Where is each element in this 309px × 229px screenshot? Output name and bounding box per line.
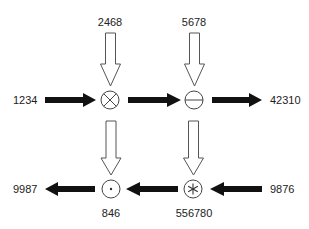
label-top-right: 5678 (182, 16, 206, 28)
solid-arrow-9876-to-star (210, 182, 262, 196)
solid-arrow-1234-to-multiply (45, 93, 96, 107)
multiply-operator-icon (101, 91, 119, 109)
solid-arrow-dot-to-9987 (45, 182, 95, 196)
solid-arrow-minus-to-42310 (212, 93, 262, 107)
label-top-left: 2468 (98, 16, 122, 28)
solid-arrow-star-to-dot (126, 182, 178, 196)
label-bottom-left: 9987 (13, 183, 37, 195)
label-mid-left: 1234 (13, 94, 37, 106)
hollow-arrow-minus-to-star (184, 121, 204, 175)
label-mid-right: 42310 (270, 94, 301, 106)
operator-flow-diagram (0, 0, 309, 229)
dot-operator-icon (102, 180, 120, 198)
label-bottom-right: 9876 (270, 183, 294, 195)
minus-operator-icon (185, 91, 203, 109)
label-below-dot: 846 (102, 207, 120, 219)
hollow-arrow-2468-to-multiply (101, 33, 121, 86)
star-operator-icon (184, 180, 202, 198)
hollow-arrow-5678-to-minus (185, 33, 205, 86)
solid-arrow-multiply-to-minus (128, 93, 181, 107)
label-below-star: 556780 (176, 207, 213, 219)
hollow-arrow-multiply-to-dot (101, 121, 121, 175)
